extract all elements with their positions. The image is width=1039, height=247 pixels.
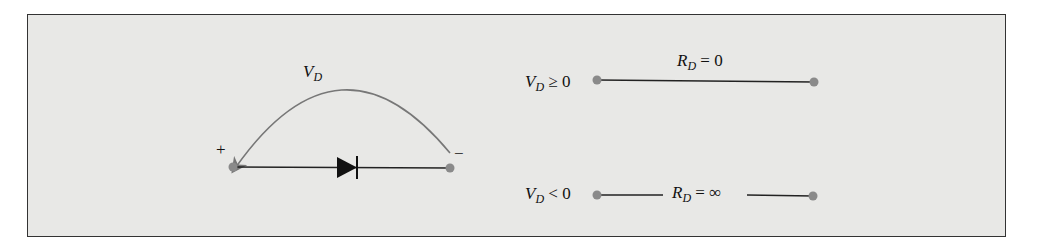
diode-circuit: VD + − bbox=[216, 62, 464, 179]
forward-condition: VD ≥ 0 bbox=[525, 72, 570, 94]
reverse-resistance: RD = ∞ bbox=[671, 183, 721, 205]
reverse-model: VD < 0 RD = ∞ bbox=[525, 183, 818, 206]
reverse-condition: VD < 0 bbox=[525, 184, 571, 206]
plus-sign: + bbox=[216, 140, 226, 159]
minus-sign: − bbox=[454, 144, 464, 163]
node-cathode bbox=[446, 164, 455, 173]
diode-icon bbox=[337, 157, 357, 178]
forward-model: VD ≥ 0 RD = 0 bbox=[525, 51, 819, 94]
vd-label: VD bbox=[303, 62, 322, 84]
diode-diagram: VD + − VD ≥ 0 RD = 0 VD < 0 RD = ∞ bbox=[0, 0, 1039, 247]
node-anode bbox=[229, 163, 238, 172]
forward-resistance: RD = 0 bbox=[676, 51, 723, 73]
voltage-arrow bbox=[236, 90, 450, 167]
